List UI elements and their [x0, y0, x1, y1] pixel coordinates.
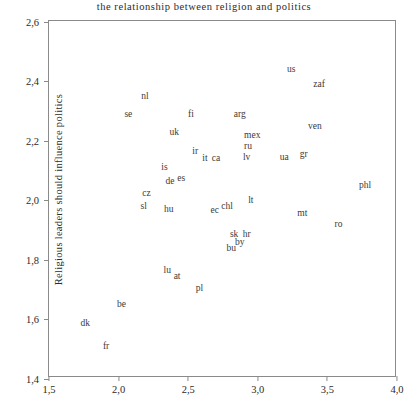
data-point-lt: lt — [248, 196, 253, 206]
data-point-fi: fi — [188, 110, 194, 120]
y-tick-mark — [44, 260, 49, 261]
y-tick: 2,0 — [26, 191, 49, 209]
y-tick-label: 2,0 — [26, 195, 39, 206]
x-tick-label: 3,0 — [251, 384, 264, 395]
y-tick-label: 1,4 — [26, 374, 39, 385]
x-tick-mark — [49, 376, 50, 381]
data-point-lv: lv — [243, 153, 250, 163]
y-tick: 2,4 — [26, 72, 49, 90]
x-tick-mark — [327, 376, 328, 381]
data-point-is: is — [161, 164, 167, 174]
x-tick: 3,0 — [251, 376, 264, 395]
x-tick: 2,0 — [112, 376, 125, 395]
y-tick: 1,8 — [26, 250, 49, 268]
y-tick-label: 2,4 — [26, 76, 39, 87]
x-tick: 1,5 — [42, 376, 55, 395]
data-point-gr: gr — [300, 150, 308, 160]
data-point-bu: bu — [227, 244, 237, 254]
x-tick: 4,0 — [390, 376, 403, 395]
y-tick: 2,6 — [26, 12, 49, 30]
data-point-es: es — [177, 174, 185, 184]
scatter-plot-figure: the relationship between religion and po… — [0, 0, 408, 411]
data-point-lu: lu — [164, 266, 171, 276]
data-point-phl: phl — [359, 181, 371, 191]
y-axis-label: Religious leaders should influence polit… — [53, 30, 64, 350]
data-point-chl: chl — [221, 202, 233, 212]
y-tick-label: 2,6 — [26, 17, 39, 28]
x-tick-mark — [397, 376, 398, 381]
data-point-be: be — [117, 300, 126, 310]
y-tick-mark — [44, 319, 49, 320]
data-point-de: de — [166, 177, 175, 187]
data-point-ven: ven — [308, 122, 322, 132]
plot-area: Religious leaders should influence polit… — [48, 20, 396, 377]
x-tick-mark — [188, 376, 189, 381]
y-tick-label: 1,8 — [26, 255, 39, 266]
data-point-it: it — [202, 155, 207, 165]
data-point-hu: hu — [164, 205, 174, 215]
data-point-us: us — [287, 65, 295, 75]
data-point-ru: ru — [244, 143, 252, 153]
data-point-ca: ca — [212, 155, 220, 165]
data-point-fr: fr — [103, 342, 109, 352]
data-point-se: se — [124, 110, 132, 120]
data-point-pl: pl — [196, 284, 203, 294]
x-tick-label: 2,5 — [182, 384, 195, 395]
x-tick-label: 3,5 — [321, 384, 334, 395]
x-tick-label: 2,0 — [112, 384, 125, 395]
data-point-uk: uk — [170, 128, 180, 138]
x-tick-label: 4,0 — [390, 384, 403, 395]
data-point-ec: ec — [210, 207, 218, 217]
data-point-cz: cz — [142, 189, 150, 199]
data-point-ua: ua — [280, 153, 289, 163]
data-point-at: at — [174, 272, 181, 282]
y-tick: 1,6 — [26, 310, 49, 328]
y-tick-mark — [44, 81, 49, 82]
y-tick-label: 2,2 — [26, 136, 39, 147]
x-tick-mark — [257, 376, 258, 381]
data-point-mt: mt — [297, 210, 307, 220]
y-tick-mark — [44, 22, 49, 23]
x-tick-label: 1,5 — [42, 384, 55, 395]
data-point-mex: mex — [244, 131, 260, 141]
x-tick-mark — [118, 376, 119, 381]
chart-title: the relationship between religion and po… — [0, 1, 408, 12]
data-point-ir: ir — [192, 147, 198, 157]
data-point-sl: sl — [140, 202, 146, 212]
data-point-arg: arg — [234, 110, 246, 120]
y-tick-label: 1,6 — [26, 314, 39, 325]
data-point-nl: nl — [141, 92, 148, 102]
data-point-zaf: zaf — [313, 80, 325, 90]
x-tick: 2,5 — [182, 376, 195, 395]
data-point-dk: dk — [80, 320, 90, 330]
y-tick: 2,2 — [26, 131, 49, 149]
data-point-ro: ro — [335, 220, 343, 230]
y-tick-mark — [44, 141, 49, 142]
y-tick-mark — [44, 200, 49, 201]
x-tick: 3,5 — [321, 376, 334, 395]
